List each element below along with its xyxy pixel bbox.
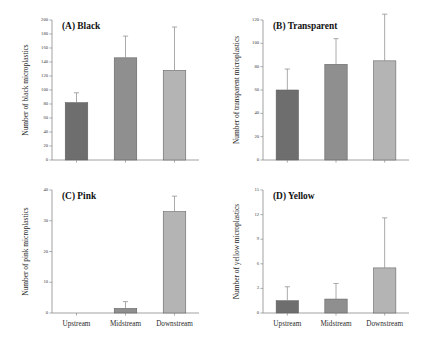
bar-A-2 xyxy=(163,70,186,160)
y-tick-label-A: 80 xyxy=(43,101,48,106)
chart-A: 020406080100120140160180200Number of bla… xyxy=(0,4,211,174)
y-tick-label-C: 20 xyxy=(43,249,48,254)
y-tick-label-D: 6 xyxy=(257,261,260,266)
panel-A: 020406080100120140160180200Number of bla… xyxy=(0,4,211,174)
y-tick-label-B: 20 xyxy=(254,134,259,139)
x-tick-label-D-0: Upstream xyxy=(273,320,301,328)
y-tick-label-B: 80 xyxy=(254,64,259,69)
y-tick-label-B: 0 xyxy=(257,157,260,162)
x-tick-label-D-2: Downstream xyxy=(366,320,403,328)
y-tick-label-A: 100 xyxy=(41,87,49,92)
bar-D-1 xyxy=(325,299,347,313)
y-tick-label-D: 15 xyxy=(254,187,259,192)
bar-C-1 xyxy=(114,308,137,313)
y-tick-label-A: 40 xyxy=(43,129,48,134)
chart-C: 010203040Number of pink microplastics(C)… xyxy=(0,174,211,349)
y-tick-label-A: 20 xyxy=(43,143,48,148)
microplastics-figure: 020406080100120140160180200Number of bla… xyxy=(0,0,421,349)
y-tick-label-C: 10 xyxy=(43,279,48,284)
y-axis-title-B: Number of transparent microplastics xyxy=(232,36,241,144)
y-tick-label-B: 100 xyxy=(252,40,260,45)
y-tick-label-D: 0 xyxy=(257,310,260,315)
y-tick-label-A: 60 xyxy=(43,115,48,120)
y-tick-label-B: 60 xyxy=(254,87,259,92)
y-axis-title-A: Number of black microplastics xyxy=(21,44,30,135)
bar-B-0 xyxy=(276,90,298,160)
bar-B-2 xyxy=(373,61,395,160)
y-tick-label-D: 12 xyxy=(254,212,259,217)
y-tick-label-B: 40 xyxy=(254,110,259,115)
chart-B: 020406080100120Number of transparent mic… xyxy=(211,4,421,174)
y-tick-label-A: 180 xyxy=(41,31,49,36)
bar-B-1 xyxy=(325,64,347,160)
panel-D: 03691215Number of yellow microplastics(D… xyxy=(211,174,421,349)
y-tick-label-B: 120 xyxy=(252,17,260,22)
x-tick-label-C-0: Upstream xyxy=(63,320,91,328)
x-tick-label-C-1: Midstream xyxy=(110,320,142,328)
y-axis-title-C: Number of pink microplastics xyxy=(21,207,30,296)
y-tick-label-C: 40 xyxy=(43,187,48,192)
bar-C-2 xyxy=(163,212,186,313)
bar-A-1 xyxy=(114,58,137,160)
panel-title-C: (C) Pink xyxy=(62,191,97,202)
y-tick-label-C: 0 xyxy=(46,310,49,315)
bar-D-2 xyxy=(373,268,395,313)
y-axis-title-D: Number of yellow microplastics xyxy=(232,204,241,300)
bar-A-0 xyxy=(65,103,88,160)
y-tick-label-C: 30 xyxy=(43,218,48,223)
panel-title-A: (A) Black xyxy=(62,21,101,32)
y-tick-label-A: 140 xyxy=(41,59,49,64)
panel-title-D: (D) Yellow xyxy=(273,191,315,202)
y-tick-label-A: 120 xyxy=(41,73,49,78)
bar-D-0 xyxy=(276,301,298,313)
chart-D: 03691215Number of yellow microplastics(D… xyxy=(211,174,421,349)
x-tick-label-C-2: Downstream xyxy=(156,320,193,328)
y-tick-label-D: 9 xyxy=(257,236,260,241)
panel-B: 020406080100120Number of transparent mic… xyxy=(211,4,421,174)
panel-title-B: (B) Transparent xyxy=(273,21,338,32)
y-tick-label-D: 3 xyxy=(257,285,260,290)
y-tick-label-A: 200 xyxy=(41,17,49,22)
y-tick-label-A: 0 xyxy=(46,157,49,162)
y-tick-label-A: 160 xyxy=(41,45,49,50)
panel-C: 010203040Number of pink microplastics(C)… xyxy=(0,174,211,349)
x-tick-label-D-1: Midstream xyxy=(320,320,352,328)
